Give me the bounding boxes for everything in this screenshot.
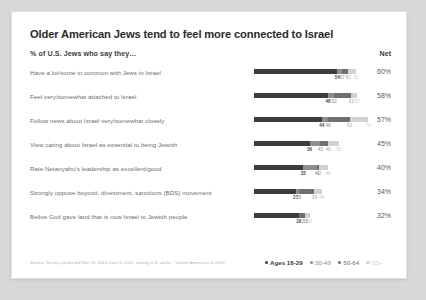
value-label: 57	[339, 75, 344, 80]
legend-item[interactable]: 65+	[366, 259, 382, 266]
chart-row: Follow news about Israel very/somewhat c…	[30, 114, 392, 138]
value-label: 66	[353, 75, 358, 80]
legend-dot-icon	[338, 261, 341, 264]
net-value: 32%	[377, 212, 391, 219]
row-bar	[254, 165, 362, 170]
row-label: Rate Netanyahu's leadership as excellent…	[30, 165, 161, 172]
page-title: Older American Jews tend to feel more co…	[30, 28, 392, 41]
row-plot: 32414248	[254, 162, 362, 186]
bar-segment	[254, 141, 310, 146]
row-bar	[254, 213, 362, 218]
value-label: 48	[325, 171, 330, 176]
legend-item[interactable]: 30-49	[310, 259, 331, 266]
row-value-labels: 29333336	[254, 219, 362, 227]
legend-label: 65+	[372, 259, 383, 266]
value-label: 39	[312, 195, 317, 200]
chart-card: Older American Jews tend to feel more co…	[11, 11, 407, 279]
net-value: 40%	[377, 164, 391, 171]
legend-label: 50-64	[343, 259, 359, 266]
net-value: 57%	[377, 116, 391, 123]
legend-item[interactable]: Ages 18-29	[265, 259, 303, 266]
row-plot: 54576166	[254, 66, 362, 90]
net-column-header: Net	[380, 50, 392, 58]
chart-row: Strongly oppose boycott, divestment, san…	[30, 186, 392, 210]
value-label: 48	[325, 123, 330, 128]
legend-dot-icon	[366, 261, 369, 264]
value-label: 44	[319, 123, 324, 128]
value-label: 32	[301, 171, 306, 176]
row-value-labels: 44486274	[254, 123, 362, 131]
row-value-labels: 27293944	[254, 195, 362, 203]
chart-legend: Ages 18-2930-4950-6465+	[265, 259, 392, 266]
row-plot: 44486274	[254, 114, 362, 138]
bar-segment	[254, 93, 328, 98]
value-label: 48	[325, 99, 330, 104]
value-label: 36	[307, 147, 312, 152]
legend-dot-icon	[265, 261, 268, 264]
chart-rows: Have a lot/some in common with Jews in I…	[30, 66, 392, 234]
bar-segment	[254, 165, 303, 170]
row-plot: 48526367	[254, 90, 362, 114]
chart-row: Belive God gave land that is now Israel …	[30, 210, 392, 234]
value-label: 42	[316, 171, 321, 176]
chart-subtitle: % of U.S. Jews who say they…	[30, 50, 136, 58]
row-plot: 27293944	[254, 186, 362, 210]
value-label: 74	[366, 123, 371, 128]
row-bar	[254, 69, 362, 74]
row-value-labels: 32414248	[254, 171, 362, 179]
legend-dot-icon	[310, 261, 313, 264]
value-label: 52	[332, 99, 337, 104]
chart-row: Rate Netanyahu's leadership as excellent…	[30, 162, 392, 186]
value-label: 29	[296, 219, 301, 224]
value-label: 63	[349, 99, 354, 104]
chart-row: Have a lot/some in common with Jews in I…	[30, 66, 392, 90]
net-value: 60%	[377, 68, 391, 75]
legend-item[interactable]: 50-64	[338, 259, 359, 266]
row-label: Feel very/somewhat attached to Israel	[30, 93, 136, 100]
row-label: Belive God gave land that is now Israel …	[30, 213, 188, 220]
chart-row: View caring about Israel as essential to…	[30, 138, 392, 162]
chart-footer: Source: Survey conducted Nov 19, 2019-Ju…	[30, 259, 392, 266]
row-plot: 29333336	[254, 210, 362, 234]
row-bar	[254, 93, 362, 98]
legend-label: Ages 18-29	[270, 259, 303, 266]
value-label: 48	[325, 147, 330, 152]
row-label: View caring about Israel as essential to…	[30, 141, 177, 148]
value-label: 67	[355, 99, 360, 104]
chart-row: Feel very/somewhat attached to Israel485…	[30, 90, 392, 114]
value-label: 44	[319, 195, 324, 200]
row-value-labels: 48526367	[254, 99, 362, 107]
value-label: 62	[347, 123, 352, 128]
bar-segment	[254, 189, 296, 194]
row-label: Follow news about Israel very/somewhat c…	[30, 117, 164, 124]
source-note: Source: Survey conducted Nov 19, 2019-Ju…	[30, 260, 226, 266]
row-label: Have a lot/some in common with Jews in I…	[30, 69, 161, 76]
row-bar	[254, 189, 362, 194]
value-label: 61	[346, 75, 351, 80]
row-bar	[254, 117, 362, 122]
row-value-labels: 54576166	[254, 75, 362, 83]
net-value: 45%	[377, 140, 391, 147]
value-label: 55	[336, 147, 341, 152]
legend-label: 30-49	[315, 259, 331, 266]
bar-segment	[254, 213, 299, 218]
value-label: 36	[307, 219, 312, 224]
subtitle-row: % of U.S. Jews who say they… Net	[30, 50, 392, 58]
row-label: Strongly oppose boycott, divestment, san…	[30, 189, 212, 196]
value-label: 43	[318, 147, 323, 152]
net-value: 34%	[377, 188, 391, 195]
row-value-labels: 36434855	[254, 147, 362, 155]
row-bar	[254, 141, 362, 146]
bar-segment	[254, 117, 322, 122]
net-value: 58%	[377, 92, 391, 99]
value-label: 29	[296, 195, 301, 200]
row-plot: 36434855	[254, 138, 362, 162]
bar-segment	[254, 69, 337, 74]
